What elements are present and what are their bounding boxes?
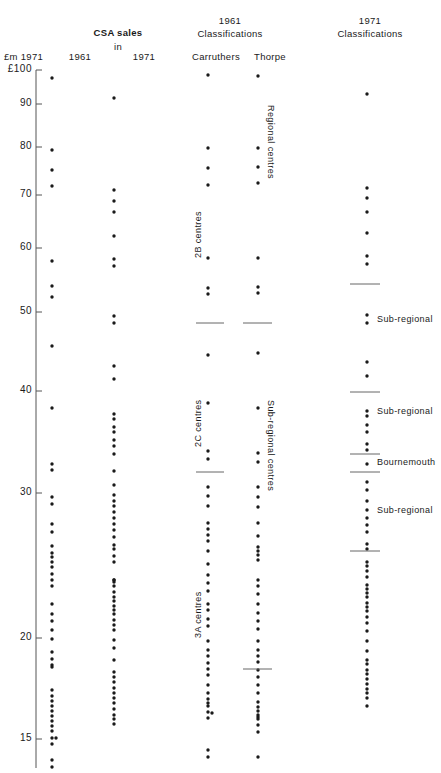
data-point — [365, 409, 368, 412]
data-point — [206, 401, 209, 404]
data-point — [206, 485, 209, 488]
data-point — [112, 469, 115, 472]
data-point — [112, 321, 115, 324]
data-point — [256, 602, 259, 605]
data-point — [256, 181, 259, 184]
data-point — [50, 184, 53, 187]
data-point — [112, 658, 115, 661]
data-point — [206, 608, 209, 611]
data-point — [256, 619, 259, 622]
data-point — [206, 673, 209, 676]
data-point — [112, 516, 115, 519]
data-point — [256, 534, 259, 537]
data-point — [50, 650, 53, 653]
data-point — [50, 699, 53, 702]
label-thorpe-subregional: Sub-regional centres — [266, 400, 276, 491]
data-point — [112, 264, 115, 267]
data-point — [365, 321, 368, 324]
data-point — [365, 575, 368, 578]
data-point — [206, 755, 209, 758]
data-point — [365, 210, 368, 213]
data-point — [365, 313, 368, 316]
data-point — [256, 705, 259, 708]
data-point — [256, 717, 259, 720]
y-axis-tick-label: 80 — [2, 140, 32, 151]
data-point — [206, 562, 209, 565]
y-axis-tick-label: 20 — [2, 631, 32, 642]
data-point — [50, 736, 53, 739]
data-point — [50, 565, 53, 568]
data-point — [112, 646, 115, 649]
label-1971-subregional-1: Sub-regional — [377, 314, 433, 324]
data-point — [112, 493, 115, 496]
data-point — [206, 286, 209, 289]
data-point — [112, 584, 115, 587]
data-point — [256, 648, 259, 651]
data-point — [206, 602, 209, 605]
data-point — [206, 704, 209, 707]
data-point — [50, 462, 53, 465]
data-point — [365, 480, 368, 483]
data-point — [256, 74, 259, 77]
data-point — [365, 629, 368, 632]
data-point — [256, 460, 259, 463]
data-point — [112, 528, 115, 531]
data-point — [206, 449, 209, 452]
data-point — [206, 697, 209, 700]
data-point — [112, 604, 115, 607]
data-point — [206, 667, 209, 670]
data-point — [112, 612, 115, 615]
data-point — [50, 637, 53, 640]
data-point — [112, 680, 115, 683]
data-point — [112, 560, 115, 563]
data-point — [206, 146, 209, 149]
data-point — [365, 621, 368, 624]
data-point — [112, 696, 115, 699]
data-point — [112, 713, 115, 716]
data-point — [206, 494, 209, 497]
data-point — [50, 729, 53, 732]
data-point — [50, 742, 53, 745]
y-axis-tick-label: 90 — [2, 97, 32, 108]
data-point — [112, 412, 115, 415]
data-point — [112, 701, 115, 704]
data-point — [256, 691, 259, 694]
chart-plot — [0, 0, 441, 773]
data-point — [256, 675, 259, 678]
data-point — [365, 639, 368, 642]
data-point — [256, 521, 259, 524]
data-point — [50, 259, 53, 262]
data-point — [50, 495, 53, 498]
data-point — [206, 504, 209, 507]
data-point — [365, 499, 368, 502]
data-point — [112, 483, 115, 486]
data-point — [206, 617, 209, 620]
data-point — [365, 360, 368, 363]
data-point — [256, 584, 259, 587]
data-point — [206, 549, 209, 552]
data-point — [112, 314, 115, 317]
data-point — [256, 406, 259, 409]
data-point — [50, 657, 53, 660]
data-point — [50, 709, 53, 712]
data-point — [206, 701, 209, 704]
data-point — [206, 691, 209, 694]
data-point — [206, 581, 209, 584]
data-point — [112, 377, 115, 380]
data-point — [50, 284, 53, 287]
data-point — [50, 765, 53, 768]
data-point — [206, 521, 209, 524]
data-point — [206, 527, 209, 530]
data-point — [50, 555, 53, 558]
data-point — [112, 257, 115, 260]
data-point — [365, 186, 368, 189]
data-point — [365, 668, 368, 671]
data-point — [206, 648, 209, 651]
data-point — [365, 523, 368, 526]
y-axis-tick-label: 60 — [2, 241, 32, 252]
data-point — [365, 662, 368, 665]
data-point — [365, 595, 368, 598]
data-point — [365, 569, 368, 572]
y-axis-tick-label: 30 — [2, 486, 32, 497]
data-point — [50, 694, 53, 697]
